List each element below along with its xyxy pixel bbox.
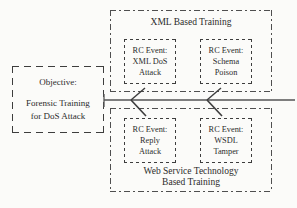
event-line-3: Tamper [213, 146, 238, 157]
group-label-xml-based-training: XML Based Training [110, 17, 272, 27]
event-box-wsdl-tamper[interactable]: RC Event: WSDL Tamper [200, 118, 252, 163]
event-box-reply-attack[interactable]: RC Event: Reply Attack [124, 118, 176, 163]
group-label-web-service-line-2: Based Training [110, 177, 272, 187]
event-line-3: Attack [139, 146, 161, 157]
event-line-2: WSDL [214, 135, 238, 146]
event-line-1: RC Event: [209, 124, 244, 135]
objective-heading: Objective: [39, 76, 77, 89]
event-box-schema-poison[interactable]: RC Event: Schema Poison [200, 39, 252, 84]
event-line-3: Attack [139, 67, 161, 78]
event-line-2: Schema [213, 56, 239, 67]
diagram-canvas: XML Based Training RC Event: XML DoS Att… [0, 0, 297, 208]
event-line-2: Reply [140, 135, 160, 146]
event-line-2: XML DoS [133, 56, 168, 67]
event-line-1: RC Event: [209, 45, 244, 56]
objective-body-line-2: for DoS Attack [31, 110, 86, 123]
objective-body-line-1: Forensic Training [26, 97, 90, 110]
objective-box[interactable]: Objective: Forensic Training for DoS Att… [12, 66, 104, 133]
event-box-xml-dos-attack[interactable]: RC Event: XML DoS Attack [124, 39, 176, 84]
event-line-1: RC Event: [133, 45, 168, 56]
event-line-1: RC Event: [133, 124, 168, 135]
group-label-web-service-line-1: Web Service Technology [110, 166, 272, 176]
event-line-3: Poison [215, 67, 238, 78]
